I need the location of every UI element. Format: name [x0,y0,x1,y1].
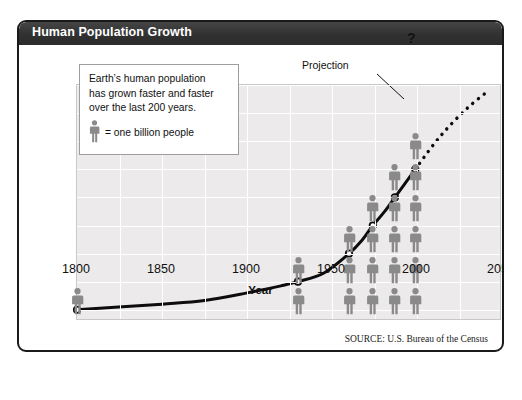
page-title: Human Population Growth [32,25,192,39]
pictogram-person [388,164,402,195]
x-axis-tick-label: 1900 [232,262,260,276]
x-axis-tick-label: 1850 [147,262,175,276]
gridline-horizontal [77,254,500,255]
pictogram-person [366,226,380,257]
pictogram-person [366,195,380,226]
person-icon [343,226,356,253]
person-icon [409,164,422,191]
person-icon [409,133,422,160]
legend-row: = one billion people [89,120,230,148]
pictogram-person [409,133,423,164]
pictogram-person [388,226,402,257]
callout-box: Earth’s human population has grown faste… [79,64,239,155]
x-axis-tick-label: 2050 [487,262,504,276]
pictogram-person [409,164,423,195]
person-icon [89,120,100,143]
x-axis-tick-label: 1950 [317,262,345,276]
callout-line-2: has grown faster and faster [89,87,230,102]
pictogram-person [409,195,423,226]
person-icon [409,226,422,253]
person-icon [366,226,379,253]
callout-line-3: over the last 200 years. [89,101,230,116]
person-icon [388,195,401,222]
person-icon [366,195,379,222]
x-axis-tick-label: 2000 [402,262,430,276]
chart-title-bar: Human Population Growth [19,22,502,45]
gridline-horizontal [77,197,500,198]
question-mark-annotation: ? [407,30,416,46]
person-icon [366,257,379,284]
person-icon [89,120,100,148]
pictogram-person [388,195,402,226]
pictogram-column [366,195,380,319]
legend-label: = one billion people [105,126,194,141]
gridline-horizontal [77,169,500,170]
person-icon [388,164,401,191]
projection-line [415,93,485,169]
person-icon [388,226,401,253]
source-credit: SOURCE: U.S. Bureau of the Census [345,334,488,344]
person-icon [292,257,305,284]
x-axis-title: Year [19,284,502,296]
annotation-leader-line [377,74,404,99]
gridline-horizontal [77,310,500,311]
person-icon [388,257,401,284]
callout-line-1: Earth’s human population [89,72,230,87]
gridline-horizontal [77,226,500,227]
pictogram-person [409,226,423,257]
projection-annotation: Projection [302,59,349,71]
gridline-horizontal [77,282,500,283]
person-icon [409,195,422,222]
chart-card: Human Population Growth Human Population… [17,20,504,352]
x-axis-tick-label: 1800 [62,262,90,276]
pictogram-person [343,226,357,257]
